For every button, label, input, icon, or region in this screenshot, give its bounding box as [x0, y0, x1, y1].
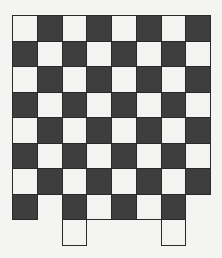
light-square — [185, 92, 211, 119]
dark-square — [86, 15, 112, 42]
dark-square — [111, 194, 137, 221]
light-square — [86, 194, 112, 221]
light-square — [37, 143, 63, 170]
light-square — [185, 41, 211, 68]
light-square — [62, 15, 88, 42]
light-square — [86, 41, 112, 68]
light-square — [62, 117, 88, 144]
dark-square — [136, 168, 162, 195]
dark-square — [62, 92, 88, 119]
dark-square — [185, 66, 211, 93]
light-square — [37, 92, 63, 119]
light-square — [136, 41, 162, 68]
light-square — [86, 92, 112, 119]
checkerboard-figure — [0, 0, 222, 258]
dark-square — [12, 41, 38, 68]
light-square — [37, 41, 63, 68]
light-square — [111, 66, 137, 93]
dark-square — [111, 41, 137, 68]
light-square — [12, 15, 38, 42]
dark-square — [161, 143, 187, 170]
light-square — [62, 66, 88, 93]
light-square — [161, 117, 187, 144]
dark-square — [12, 143, 38, 170]
dark-square — [86, 66, 112, 93]
light-square — [185, 143, 211, 170]
light-square — [12, 66, 38, 93]
light-square — [62, 219, 88, 246]
dark-square — [37, 15, 63, 42]
dark-square — [37, 117, 63, 144]
light-square — [111, 168, 137, 195]
dark-square — [111, 92, 137, 119]
light-square — [62, 168, 88, 195]
dark-square — [111, 143, 137, 170]
dark-square — [185, 168, 211, 195]
dark-square — [161, 41, 187, 68]
dark-square — [62, 41, 88, 68]
light-square — [136, 92, 162, 119]
dark-square — [37, 168, 63, 195]
light-square — [12, 168, 38, 195]
light-square — [161, 168, 187, 195]
dark-square — [62, 194, 88, 221]
light-square — [161, 66, 187, 93]
dark-square — [185, 117, 211, 144]
light-square — [86, 143, 112, 170]
dark-square — [37, 66, 63, 93]
dark-square — [62, 143, 88, 170]
dark-square — [161, 92, 187, 119]
light-square — [161, 15, 187, 42]
dark-square — [12, 194, 38, 221]
dark-square — [185, 15, 211, 42]
light-square — [111, 117, 137, 144]
dark-square — [12, 92, 38, 119]
dark-square — [86, 168, 112, 195]
light-square — [161, 219, 187, 246]
light-square — [111, 15, 137, 42]
light-square — [12, 117, 38, 144]
dark-square — [86, 117, 112, 144]
dark-square — [136, 66, 162, 93]
dark-square — [136, 15, 162, 42]
dark-square — [136, 117, 162, 144]
dark-square — [161, 194, 187, 221]
light-square — [136, 143, 162, 170]
light-square — [136, 194, 162, 221]
